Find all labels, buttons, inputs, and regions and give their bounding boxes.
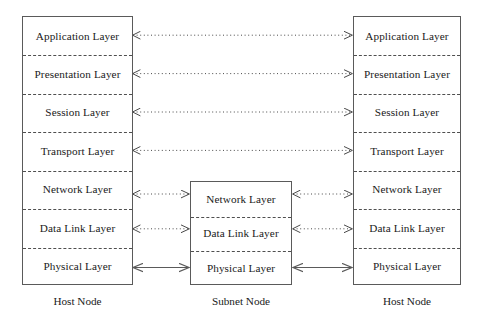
- layer-cell-application-left: Application Layer: [23, 17, 132, 55]
- layer-cell-physical-subnet: Physical Layer: [191, 251, 291, 286]
- layer-cell-presentation-left: Presentation Layer: [23, 55, 132, 93]
- node-host-right: Application Layer Presentation Layer Ses…: [353, 16, 461, 285]
- layer-cell-datalink-subnet: Data Link Layer: [191, 217, 291, 252]
- layer-cell-transport-left: Transport Layer: [23, 132, 132, 170]
- layer-cell-network-left: Network Layer: [23, 171, 132, 209]
- node-caption-host-right: Host Node: [353, 296, 461, 307]
- layer-cell-network-subnet: Network Layer: [191, 182, 291, 217]
- layer-cell-physical-left: Physical Layer: [23, 248, 132, 286]
- layer-cell-application-right: Application Layer: [354, 17, 460, 55]
- node-subnet-middle: Network Layer Data Link Layer Physical L…: [190, 181, 292, 285]
- layer-cell-presentation-right: Presentation Layer: [354, 55, 460, 93]
- node-caption-subnet: Subnet Node: [190, 296, 292, 307]
- layer-cell-network-right: Network Layer: [354, 171, 460, 209]
- layer-cell-datalink-left: Data Link Layer: [23, 209, 132, 247]
- layer-cell-transport-right: Transport Layer: [354, 132, 460, 170]
- osi-layer-diagram: Application Layer Presentation Layer Ses…: [0, 0, 478, 323]
- layer-cell-session-right: Session Layer: [354, 94, 460, 132]
- layer-cell-datalink-right: Data Link Layer: [354, 209, 460, 247]
- layer-cell-physical-right: Physical Layer: [354, 248, 460, 286]
- layer-cell-session-left: Session Layer: [23, 94, 132, 132]
- node-host-left: Application Layer Presentation Layer Ses…: [22, 16, 133, 285]
- node-caption-host-left: Host Node: [22, 296, 133, 307]
